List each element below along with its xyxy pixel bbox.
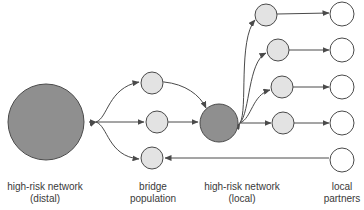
- network-diagram: [0, 0, 364, 210]
- node-bridge-1: [141, 72, 163, 94]
- label-line: local: [324, 181, 361, 193]
- node-local-hub: [200, 104, 238, 142]
- node-partner-2: [330, 38, 354, 62]
- label-distal-network: high-risk network (distal): [7, 181, 83, 205]
- node-local-1: [255, 4, 277, 26]
- node-partner-4: [330, 111, 354, 135]
- node-partner-1: [330, 2, 354, 26]
- node-local-4: [272, 112, 294, 134]
- edge-distal-bridge3: [96, 122, 139, 159]
- label-local-partners: local partners: [324, 181, 361, 205]
- label-local-network: high-risk network (local): [204, 181, 280, 205]
- node-partner-5: [330, 148, 354, 172]
- label-line: population: [130, 193, 176, 205]
- node-distal-network: [8, 84, 84, 160]
- label-line: high-risk network: [7, 181, 83, 193]
- node-partner-3: [330, 75, 354, 99]
- node-local-3: [271, 76, 293, 98]
- label-bridge-population: bridge population: [130, 181, 176, 205]
- node-bridge-3: [141, 147, 163, 169]
- edge-distal-bridge1: [96, 82, 139, 122]
- edge-bridge1-hub: [164, 82, 206, 108]
- label-line: (local): [204, 193, 280, 205]
- label-line: high-risk network: [204, 181, 280, 193]
- label-line: bridge: [130, 181, 176, 193]
- edge-hub-local3: [240, 90, 270, 123]
- edge-local1-partner1: [277, 13, 329, 14]
- label-line: partners: [324, 193, 361, 205]
- node-local-2: [267, 39, 289, 61]
- label-line: (distal): [7, 193, 83, 205]
- node-bridge-2: [146, 111, 168, 133]
